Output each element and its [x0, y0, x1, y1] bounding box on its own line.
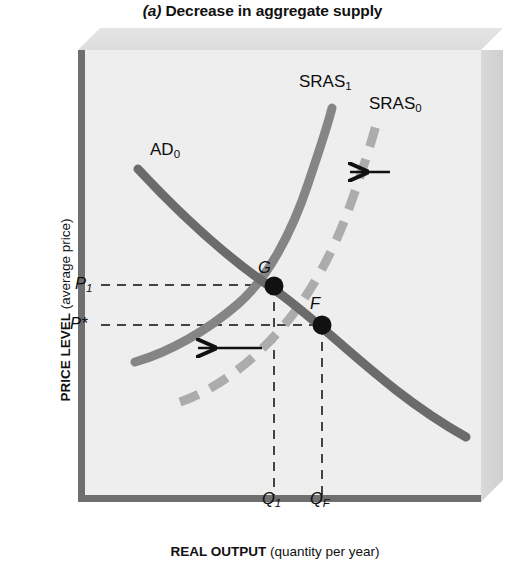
curve-label-sras1-sub: 1	[345, 80, 351, 92]
curve-label-sras1-base: SRAS	[299, 72, 345, 91]
x-tick-qf-sub: F	[323, 497, 330, 509]
x-tick-qf-base: Q	[310, 489, 323, 507]
point-label-f: F	[310, 294, 320, 313]
plot-box-top-bevel	[78, 28, 503, 50]
y-axis-title-strong: PRICE LEVEL	[58, 313, 73, 402]
point-label-g: G	[258, 258, 271, 277]
figure-title: (a) Decrease in aggregate supply	[0, 2, 525, 20]
figure-title-text: Decrease in aggregate supply	[166, 2, 383, 19]
curve-label-ad0-base: AD	[150, 140, 174, 159]
curve-label-sras0-base: SRAS	[369, 94, 415, 113]
aggregate-supply-figure: (a) Decrease in aggregate supply	[0, 0, 525, 574]
curve-label-sras1: SRAS1	[299, 72, 352, 92]
curve-label-ad0: AD0	[150, 140, 180, 160]
y-tick-p1-sub: 1	[86, 282, 92, 294]
y-axis-title: PRICE LEVEL (average price)	[58, 100, 73, 520]
plot-box-3d	[78, 28, 503, 502]
y-tick-label-p1: P1	[75, 274, 92, 294]
panel-letter: (a)	[143, 2, 162, 19]
x-tick-q1-sub: 1	[275, 497, 281, 509]
plot-box-right-bevel	[481, 50, 503, 502]
curve-label-ad0-sub: 0	[174, 148, 180, 160]
curve-label-sras0-sub: 0	[415, 102, 421, 114]
y-tick-p1-base: P	[75, 274, 86, 292]
x-tick-label-q1: Q1	[262, 489, 281, 509]
x-tick-q1-base: Q	[262, 489, 275, 507]
curve-label-sras0: SRAS0	[369, 94, 422, 114]
x-axis-title-sub: (quantity per year)	[270, 544, 380, 559]
x-tick-label-qf: QF	[310, 489, 330, 509]
x-axis-title-strong: REAL OUTPUT	[170, 544, 266, 559]
plot-area	[78, 50, 481, 502]
y-axis-title-sub: (average price)	[58, 218, 73, 309]
x-axis-title: REAL OUTPUT (quantity per year)	[60, 544, 490, 559]
